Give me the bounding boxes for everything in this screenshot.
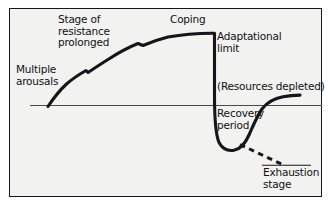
label-stage-of-resistance: Stage of resistance prolonged (58, 14, 110, 49)
label-multiple-arousals: Multiple arousals (16, 64, 58, 87)
label-recovery-period: Recovery period (217, 108, 264, 131)
stress-response-diagram: Stage of resistance prolonged Coping Ada… (0, 0, 334, 211)
label-exhaustion-stage: Exhaustion stage (263, 167, 319, 190)
label-coping: Coping (170, 14, 205, 26)
label-adaptational-limit: Adaptational limit (217, 31, 281, 54)
exhaustion-dashed-line (240, 145, 284, 166)
label-resources-depleted: (Resources depleted) (217, 81, 325, 93)
